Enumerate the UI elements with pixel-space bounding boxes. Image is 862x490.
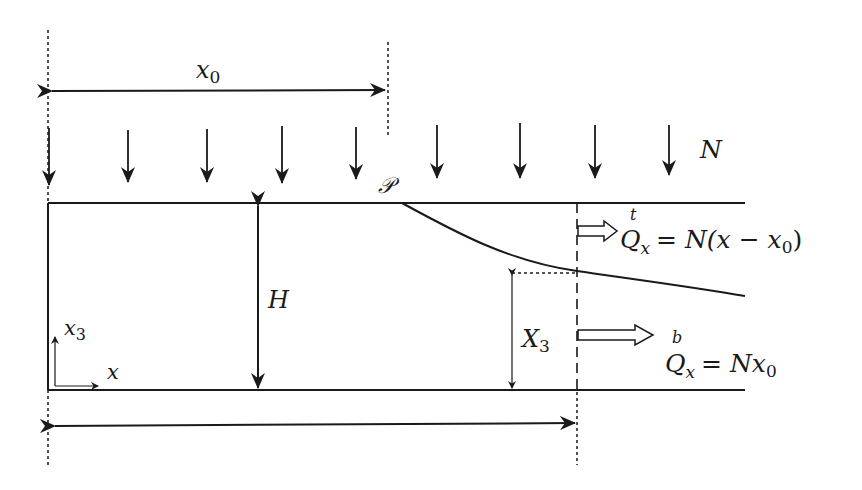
load-arrows — [49, 123, 669, 185]
H-label: H — [267, 286, 290, 314]
x0-dimension-arrow — [52, 90, 385, 91]
bottom-dimension-arrow — [55, 423, 575, 426]
top-flux-superscript: t — [630, 205, 637, 224]
x3-axis-label: x3 — [64, 316, 86, 344]
point-P-label: 𝒫 — [378, 173, 400, 198]
top-flux-equation: Qx= N(x − x0) — [620, 225, 802, 258]
bottom-flux-equation: Qx= Nx0 — [665, 349, 777, 382]
X3-label: X3 — [520, 325, 550, 356]
top-flux-arrow — [578, 221, 617, 241]
diagram-canvas: x0 N 𝒫 H X3 Qx= N(x − x0) t b — [0, 0, 862, 490]
load-label-N: N — [699, 135, 723, 164]
x-axis-label: x — [107, 360, 119, 384]
bottom-flux-superscript: b — [672, 328, 682, 347]
bottom-flux-arrow — [578, 325, 653, 345]
x0-label: x0 — [196, 56, 220, 87]
